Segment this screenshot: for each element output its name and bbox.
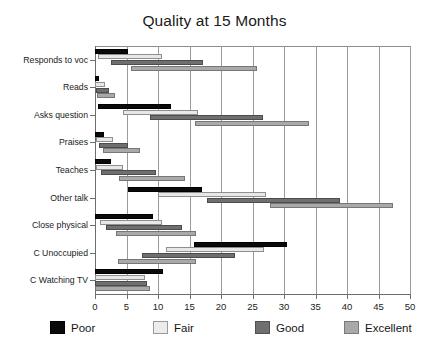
category-group: C Watching TV <box>95 269 410 291</box>
x-tick-45 <box>379 294 380 299</box>
bar-fair <box>100 220 162 225</box>
bar-poor <box>95 49 128 54</box>
x-tick-label-50: 50 <box>405 301 416 312</box>
bar-good <box>99 143 128 148</box>
bar-poor <box>194 242 287 247</box>
bar-poor <box>95 132 104 137</box>
bar-poor <box>95 214 153 219</box>
bar-poor <box>95 269 163 274</box>
y-tick-4 <box>90 170 95 171</box>
x-tick-label-30: 30 <box>279 301 290 312</box>
y-axis-label-8: C Watching TV <box>30 275 88 285</box>
category-group: Teaches <box>95 159 410 181</box>
x-tick-label-25: 25 <box>247 301 258 312</box>
bar-excellent <box>103 148 140 153</box>
y-axis-label-0: Responds to voc <box>23 55 88 65</box>
category-group: Praises <box>95 132 410 154</box>
bar-excellent <box>118 259 195 264</box>
y-tick-0 <box>90 60 95 61</box>
bar-good <box>142 253 235 258</box>
y-axis-label-1: Reads <box>63 82 88 92</box>
legend-swatch-fair <box>153 321 168 334</box>
bar-good <box>150 115 263 120</box>
x-tick-20 <box>221 294 222 299</box>
category-group: Asks question <box>95 104 410 126</box>
category-group: C Unoccupied <box>95 242 410 264</box>
y-axis-label-6: Close physical <box>32 220 88 230</box>
legend-item-excellent: Excellent <box>344 321 412 334</box>
bar-excellent <box>131 66 257 71</box>
bar-fair <box>123 110 198 115</box>
x-tick-40 <box>347 294 348 299</box>
legend-swatch-good <box>255 321 270 334</box>
x-tick-5 <box>127 294 128 299</box>
bar-excellent <box>97 93 115 98</box>
y-axis-label-4: Teaches <box>56 165 88 175</box>
y-axis-label-5: Other talk <box>50 193 88 203</box>
bar-fair <box>98 54 162 59</box>
bar-excellent <box>95 286 150 291</box>
x-tick-label-0: 0 <box>92 301 97 312</box>
legend-label-fair: Fair <box>174 322 194 334</box>
legend-item-good: Good <box>255 321 304 334</box>
bar-fair <box>166 247 264 252</box>
legend-item-poor: Poor <box>50 321 95 334</box>
category-group: Reads <box>95 76 410 98</box>
y-tick-1 <box>90 87 95 88</box>
bar-poor <box>98 104 171 109</box>
x-tick-50 <box>410 294 411 299</box>
legend-label-poor: Poor <box>71 322 95 334</box>
chart-legend: PoorFairGoodExcellent <box>50 321 410 343</box>
x-tick-0 <box>95 294 96 299</box>
bar-fair <box>95 82 105 87</box>
y-tick-6 <box>90 225 95 226</box>
x-tick-label-10: 10 <box>153 301 164 312</box>
bar-good <box>95 281 147 286</box>
y-axis-label-2: Asks question <box>34 110 88 120</box>
y-axis-label-7: C Unoccupied <box>33 248 88 258</box>
bar-excellent <box>119 176 185 181</box>
x-tick-label-15: 15 <box>184 301 195 312</box>
legend-label-good: Good <box>276 322 304 334</box>
legend-swatch-poor <box>50 321 65 334</box>
legend-item-fair: Fair <box>153 321 194 334</box>
bar-good <box>101 170 156 175</box>
bar-good <box>106 225 182 230</box>
x-tick-30 <box>284 294 285 299</box>
x-tick-label-5: 5 <box>124 301 129 312</box>
bar-poor <box>95 76 99 81</box>
bar-poor <box>95 159 111 164</box>
plot-area: 05101520253035404550Responds to vocReads… <box>95 46 410 294</box>
bar-excellent <box>116 231 195 236</box>
bar-fair <box>96 137 112 142</box>
y-tick-7 <box>90 253 95 254</box>
chart-title: Quality at 15 Months <box>0 12 429 30</box>
category-group: Other talk <box>95 187 410 209</box>
legend-swatch-excellent <box>344 321 359 334</box>
y-tick-5 <box>90 198 95 199</box>
x-tick-15 <box>190 294 191 299</box>
bar-good <box>207 198 340 203</box>
legend-label-excellent: Excellent <box>365 322 412 334</box>
bar-fair <box>158 192 266 197</box>
y-tick-3 <box>90 142 95 143</box>
bar-fair <box>96 165 122 170</box>
x-tick-35 <box>316 294 317 299</box>
chart-container: Quality at 15 Months 0510152025303540455… <box>0 0 429 354</box>
x-tick-10 <box>158 294 159 299</box>
x-tick-label-40: 40 <box>342 301 353 312</box>
bar-good <box>96 88 109 93</box>
bar-fair <box>95 275 145 280</box>
bar-poor <box>128 187 202 192</box>
bar-excellent <box>195 121 309 126</box>
category-group: Responds to voc <box>95 49 410 71</box>
bar-good <box>111 60 204 65</box>
x-tick-label-20: 20 <box>216 301 227 312</box>
bar-excellent <box>270 203 393 208</box>
y-axis-label-3: Praises <box>59 137 88 147</box>
x-tick-label-45: 45 <box>373 301 384 312</box>
gridline-x-50 <box>410 46 411 294</box>
category-group: Close physical <box>95 214 410 236</box>
y-tick-2 <box>90 115 95 116</box>
x-tick-25 <box>253 294 254 299</box>
